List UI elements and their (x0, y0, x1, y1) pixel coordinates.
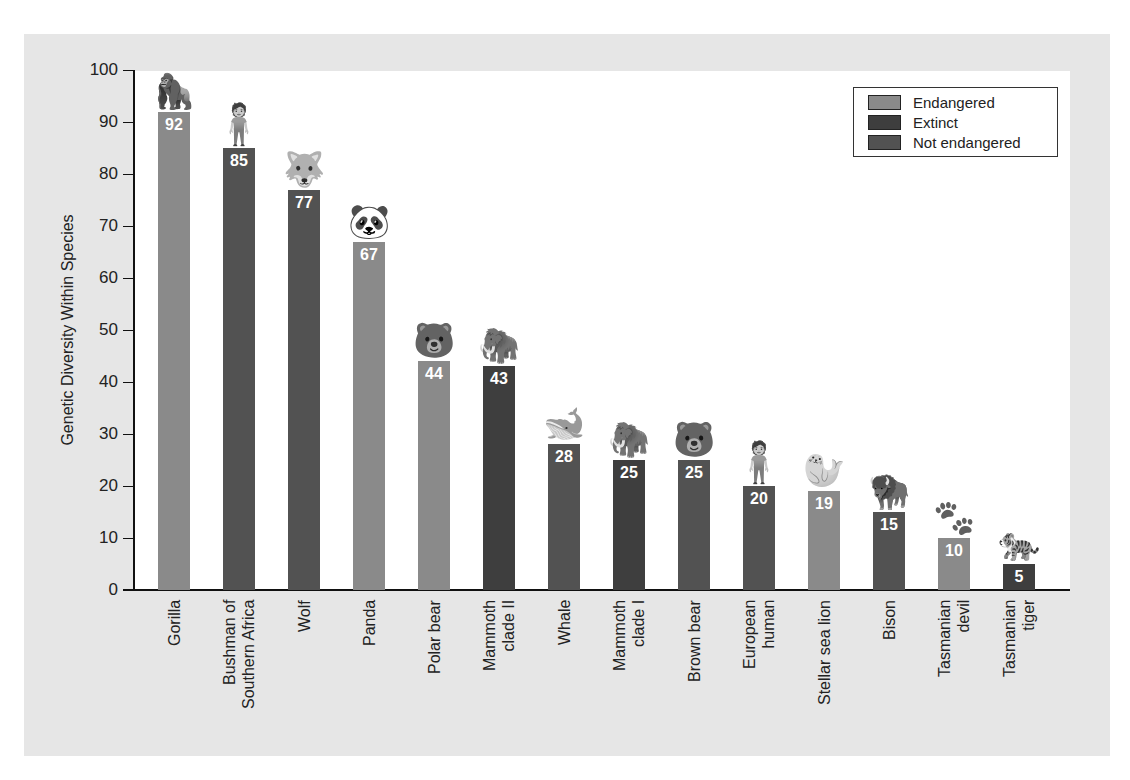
x-tick-label-line: clade I (629, 600, 648, 671)
mammoth-icon: 🦣 (464, 328, 534, 362)
bar-value-label: 92 (158, 116, 190, 134)
x-tick-label-line: human (759, 600, 778, 669)
x-tick-label: Tasmaniandevil (935, 600, 973, 677)
bar-value-label: 10 (938, 542, 970, 560)
polar-bear-icon: 🐻 (399, 323, 469, 357)
gorilla-icon: 🦍 (139, 74, 209, 108)
bar-value-label: 25 (613, 464, 645, 482)
y-tick-label: 90 (58, 113, 118, 131)
bar: 44 (418, 361, 450, 590)
y-tick-label: 20 (58, 477, 118, 495)
legend-swatch-not-endangered (868, 135, 901, 150)
x-tick-label: Bushman ofSouthern Africa (220, 600, 258, 709)
x-tick-label-line: Polar bear (425, 600, 444, 674)
x-tick-label-line: Brown bear (685, 600, 704, 682)
bar: 77 (288, 190, 320, 590)
tasmanian-devil-icon: 🐾 (919, 500, 989, 534)
x-tick-label-line: Stellar sea lion (815, 600, 834, 705)
human-icon: 🧍 (724, 442, 794, 482)
bar: 5 (1003, 564, 1035, 590)
x-tick-label-line: Tasmanian (1000, 600, 1019, 677)
legend-label: Extinct (913, 114, 958, 131)
bar-value-label: 28 (548, 448, 580, 466)
y-tick (123, 434, 133, 435)
y-tick (123, 122, 133, 123)
bar-value-label: 20 (743, 490, 775, 508)
bar-value-label: 19 (808, 495, 840, 513)
x-tick-label-line: clade II (499, 600, 518, 671)
x-tick-label: Panda (360, 600, 379, 646)
legend: Endangered Extinct Not endangered (853, 87, 1058, 157)
y-tick-label: 80 (58, 165, 118, 183)
tasmanian-tiger-icon: 🐅 (984, 526, 1054, 560)
x-tick-label: Stellar sea lion (815, 600, 834, 705)
sea-lion-icon: 🦭 (789, 453, 859, 487)
y-tick (123, 278, 133, 279)
x-tick-label-line: Southern Africa (239, 600, 258, 709)
bar-value-label: 44 (418, 365, 450, 383)
legend-label: Not endangered (913, 134, 1021, 151)
x-tick-label-line: Wolf (295, 600, 314, 632)
legend-item-not-endangered: Not endangered (868, 132, 1021, 152)
bar: 25 (613, 460, 645, 590)
x-tick-label-line: Bison (880, 600, 899, 640)
legend-swatch-extinct (868, 115, 901, 130)
bison-icon: 🦬 (854, 474, 924, 508)
mammoth-icon: 🦣 (594, 422, 664, 456)
legend-label: Endangered (913, 94, 995, 111)
legend-item-endangered: Endangered (868, 92, 995, 112)
bar: 67 (353, 242, 385, 590)
x-tick-label: Mammothclade I (610, 600, 648, 671)
bar-value-label: 85 (223, 152, 255, 170)
bar: 43 (483, 366, 515, 590)
x-tick-label: Whale (555, 600, 574, 645)
x-tick-label: Wolf (295, 600, 314, 632)
x-tick-label: Bison (880, 600, 899, 640)
bar-value-label: 67 (353, 246, 385, 264)
x-tick-label-line: Mammoth (610, 600, 629, 671)
bar-value-label: 5 (1003, 568, 1035, 586)
bar: 19 (808, 491, 840, 590)
y-tick (123, 538, 133, 539)
bar-value-label: 43 (483, 370, 515, 388)
x-tick-label: Gorilla (165, 600, 184, 646)
y-tick (123, 70, 133, 71)
y-tick (123, 226, 133, 227)
x-tick-label-line: devil (954, 600, 973, 677)
x-tick-label-line: Panda (360, 600, 379, 646)
bar-value-label: 77 (288, 194, 320, 212)
y-axis-title: Genetic Diversity Within Species (59, 214, 77, 445)
bar-value-label: 15 (873, 516, 905, 534)
x-tick-label-line: Tasmanian (935, 600, 954, 677)
x-tick-label: Tasmaniantiger (1000, 600, 1038, 677)
x-tick-label-line: Whale (555, 600, 574, 645)
x-tick-label: Polar bear (425, 600, 444, 674)
y-tick (123, 486, 133, 487)
x-axis-line (123, 589, 1070, 591)
x-tick-label-line: European (740, 600, 759, 669)
x-tick-label: Brown bear (685, 600, 704, 682)
brown-bear-icon: 🐻 (659, 422, 729, 456)
legend-swatch-endangered (868, 95, 901, 110)
bar: 92 (158, 112, 190, 590)
human-icon: 🧍 (204, 104, 274, 144)
bar: 85 (223, 148, 255, 590)
bar: 28 (548, 444, 580, 590)
legend-item-extinct: Extinct (868, 112, 958, 132)
bar-value-label: 25 (678, 464, 710, 482)
x-tick-label-line: Mammoth (480, 600, 499, 671)
x-tick-label: Europeanhuman (740, 600, 778, 669)
whale-icon: 🐋 (529, 406, 599, 440)
y-tick-label: 100 (58, 61, 118, 79)
wolf-icon: 🐺 (269, 152, 339, 186)
x-tick-label-line: tiger (1019, 600, 1038, 677)
x-tick-label-line: Bushman of (220, 600, 239, 709)
y-tick (123, 382, 133, 383)
x-tick-label-line: Gorilla (165, 600, 184, 646)
panda-icon: 🐼 (334, 204, 404, 238)
y-tick (123, 174, 133, 175)
y-tick (123, 330, 133, 331)
bar: 20 (743, 486, 775, 590)
bar: 10 (938, 538, 970, 590)
y-tick-label: 0 (58, 581, 118, 599)
